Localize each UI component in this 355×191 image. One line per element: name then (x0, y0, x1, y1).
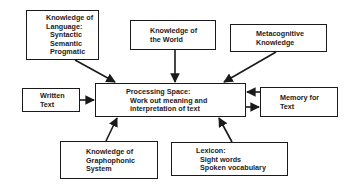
node-knowledge-of-world: Knowledge of the World (130, 20, 216, 50)
node-line: Progmatic (46, 48, 98, 57)
arrow-graphophonic-to-processing (106, 118, 117, 141)
node-line: interpretation of text (126, 105, 245, 114)
node-knowledge-of-language: Knowledge of Language: Syntactic Semanti… (26, 10, 99, 60)
node-written-text: Written Text (22, 88, 80, 112)
node-line: Knowledge (256, 39, 326, 48)
arrow-lexicon-to-processing (219, 118, 232, 142)
node-memory-for-text: Memory for Text (260, 87, 338, 117)
node-knowledge-of-graphophonic-system: Knowledge of Graphophonic System (60, 141, 158, 179)
node-line: Spoken vocabulary (196, 164, 287, 173)
node-metacognitive-knowledge: Metacognitive Knowledge (230, 24, 327, 52)
node-line: the World (150, 36, 215, 45)
node-processing-space: Processing Space: Work out meaning and i… (95, 83, 246, 117)
arrow-metacognitive-to-processing (224, 52, 276, 82)
node-line: Text (40, 101, 79, 110)
node-lexicon: Lexicon: Sight words Spoken vocabulary (171, 142, 288, 176)
node-line: System (86, 165, 157, 174)
diagram-canvas: Knowledge of Language: Syntactic Semanti… (0, 0, 355, 191)
arrow-language-to-processing (75, 60, 115, 82)
node-line: Text (280, 103, 337, 112)
